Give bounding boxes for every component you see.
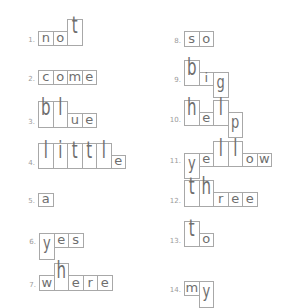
letter: o (200, 32, 214, 46)
letter-box: o (242, 153, 258, 167)
letter: a (39, 192, 53, 206)
letter: e (83, 70, 97, 84)
letter-box: e (111, 155, 127, 169)
letter-box: t (67, 143, 83, 169)
letter: s (69, 233, 83, 247)
letter-box: s (184, 31, 200, 47)
letter-box: t (184, 221, 200, 247)
letter: m (68, 70, 82, 84)
letter: e (69, 276, 83, 290)
letter: l (214, 88, 228, 124)
letter: t (68, 7, 82, 44)
letter-box: y (199, 281, 215, 308)
letter: m (185, 281, 199, 295)
letter-box: r (83, 275, 99, 291)
letter: n (39, 31, 53, 45)
letter-box: o (53, 31, 69, 46)
letter: t (68, 131, 82, 167)
letter: h (200, 168, 214, 205)
letter-box: l (53, 101, 69, 128)
letter-box: w (257, 153, 273, 167)
letter: i (54, 131, 68, 167)
letter: e (83, 113, 97, 127)
letter: y (40, 234, 54, 254)
letter-box: w (39, 275, 55, 291)
letter-box: u (67, 113, 83, 128)
item-number: 11. (161, 157, 181, 165)
letter: e (229, 192, 243, 206)
letter: o (243, 152, 257, 166)
letter: o (54, 70, 68, 84)
letter-box: m (184, 281, 200, 296)
letter: r (214, 192, 228, 206)
letter: s (185, 32, 199, 46)
letter: l (54, 89, 68, 126)
item-number: 9. (161, 76, 181, 84)
letter: e (243, 192, 257, 206)
letter: e (200, 111, 214, 125)
letter-box: e (54, 233, 70, 248)
letter-box: e (228, 192, 244, 207)
letter-box: t (67, 19, 83, 46)
letter: u (68, 113, 82, 127)
item-number: 14. (161, 286, 181, 294)
letter-box: h (184, 100, 200, 126)
letter: e (98, 276, 112, 290)
letter: o (200, 232, 214, 246)
letter: c (39, 70, 53, 84)
letter: e (112, 154, 126, 168)
letter-box: e (242, 192, 258, 207)
letter-box: e (68, 275, 84, 291)
letter-box: l (96, 143, 112, 169)
letter: r (84, 276, 98, 290)
letter-box: e (199, 112, 215, 126)
letter: b (185, 48, 199, 84)
letter: b (39, 89, 53, 126)
item-number: 3. (15, 118, 35, 126)
item-number: 4. (15, 159, 35, 167)
item-number: 12. (161, 197, 181, 205)
letter-box: h (199, 180, 215, 207)
letter-box: s (68, 233, 84, 248)
letter: w (40, 276, 54, 290)
letter-box: b (184, 60, 200, 86)
item-number: 5. (15, 197, 35, 205)
letter: w (258, 152, 272, 166)
item-number: 1. (15, 36, 35, 44)
letter-box: l (38, 143, 54, 169)
letter-box: n (38, 31, 54, 46)
letter: t (185, 168, 199, 205)
letter-box: l (228, 141, 244, 167)
letter-box: y (39, 233, 55, 260)
letter-box: o (199, 31, 215, 47)
letter-box: e (82, 70, 98, 85)
letter: h (185, 88, 199, 124)
item-number: 8. (161, 37, 181, 45)
letter: i (200, 71, 214, 85)
letter: e (55, 233, 69, 247)
letter-box: i (199, 72, 215, 86)
letter: h (55, 250, 69, 289)
letter-box: i (53, 143, 69, 169)
letter-box: t (184, 180, 200, 207)
letter-box: m (67, 70, 83, 85)
letter-box: o (199, 233, 215, 247)
letter-box: o (53, 70, 69, 85)
letter-box: r (213, 192, 229, 207)
letter-box: b (38, 101, 54, 128)
letter-box: e (82, 113, 98, 128)
letter: l (214, 129, 228, 165)
letter-box: l (213, 141, 229, 167)
letter: o (54, 31, 68, 45)
item-number: 2. (15, 75, 35, 83)
letter: e (200, 152, 214, 166)
letter: t (185, 209, 199, 245)
letter-box: l (213, 100, 229, 126)
letter: l (39, 131, 53, 167)
letter-box: c (38, 70, 54, 85)
letter: l (229, 129, 243, 165)
letter: l (97, 131, 111, 167)
item-number: 6. (16, 238, 36, 246)
item-number: 10. (161, 116, 181, 124)
letter-box: e (199, 153, 215, 167)
